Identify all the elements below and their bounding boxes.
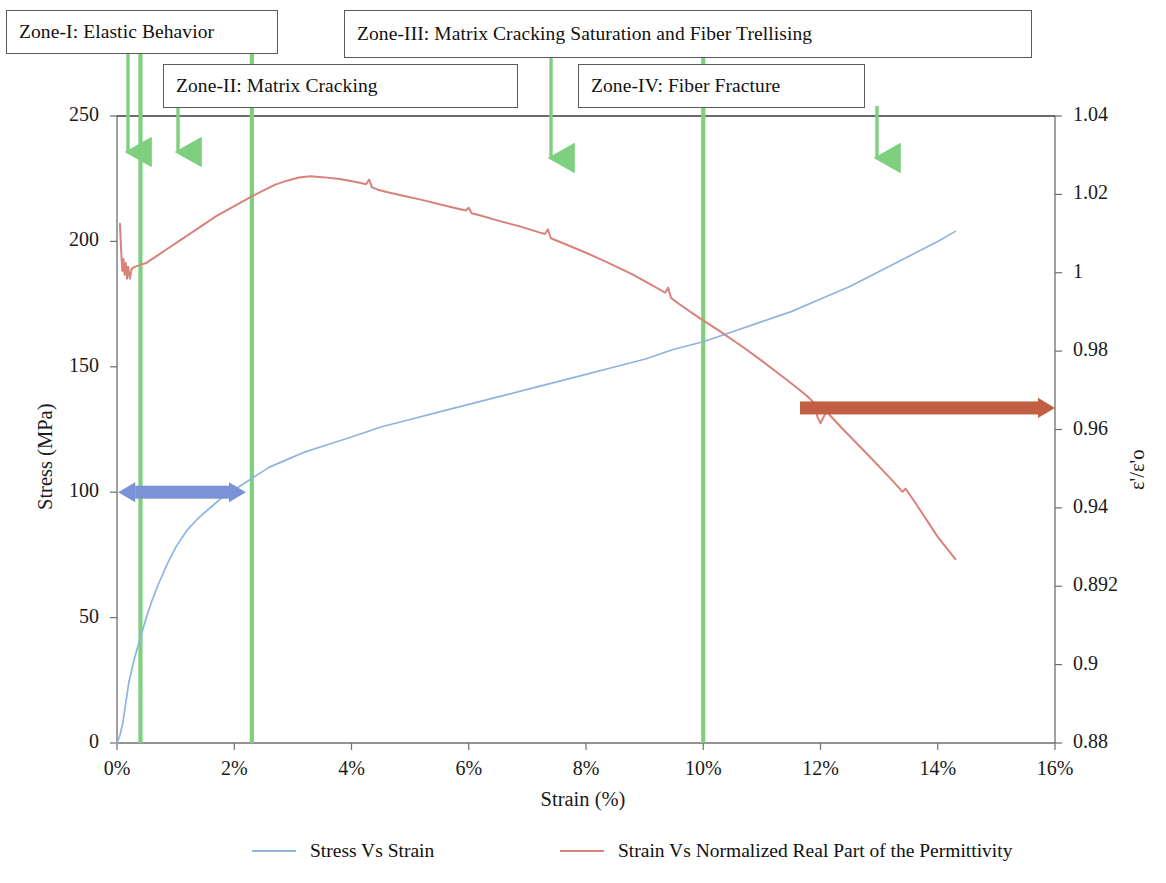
range-span-arrows xyxy=(118,398,1055,502)
tick-label: 0% xyxy=(72,757,162,780)
tick-label: 250 xyxy=(7,103,99,126)
tick-label: 8% xyxy=(541,757,631,780)
zone-callout-3-label: Zone-III: Matrix Cracking Saturation and… xyxy=(357,23,812,45)
tick-label: 200 xyxy=(7,228,99,251)
y2-axis-title-text: ε'/ε'o xyxy=(1126,449,1148,490)
tick-label: 0.94 xyxy=(1073,495,1166,518)
chart-canvas xyxy=(0,0,1166,883)
tick-label: 1.02 xyxy=(1073,181,1166,204)
tick-label: 150 xyxy=(7,354,99,377)
tick-label: 1.04 xyxy=(1073,103,1166,126)
tick-label: 0 xyxy=(7,730,99,753)
tick-label: 0.96 xyxy=(1073,417,1166,440)
legend-swatch-permittivity xyxy=(560,850,604,852)
legend-label-permittivity: Strain Vs Normalized Real Part of the Pe… xyxy=(618,840,1012,862)
zone-callout-4-label: Zone-IV: Fiber Fracture xyxy=(591,75,780,97)
x-axis-title: Strain (%) xyxy=(0,788,1166,811)
legend-label-stress: Stress Vs Strain xyxy=(310,840,434,862)
tick-label: 0.98 xyxy=(1073,338,1166,361)
series-line-permittivity xyxy=(120,176,955,559)
tick-label: 100 xyxy=(7,479,99,502)
zone-callout-2-label: Zone-II: Matrix Cracking xyxy=(176,75,378,97)
y2-axis-title: ε'/ε'o xyxy=(1126,449,1149,490)
figure-root: Zone-I: Elastic Behavior Zone-III: Matri… xyxy=(0,0,1166,883)
legend-entry-stress[interactable]: Stress Vs Strain xyxy=(252,840,434,862)
legend: Stress Vs Strain Strain Vs Normalized Re… xyxy=(0,838,1166,878)
data-series xyxy=(117,176,955,743)
tick-label: 10% xyxy=(658,757,748,780)
tick-label: 14% xyxy=(893,757,983,780)
tick-label: 2% xyxy=(189,757,279,780)
tick-label: 4% xyxy=(307,757,397,780)
tick-label: 0.9 xyxy=(1073,652,1166,675)
zone-callout-1[interactable]: Zone-I: Elastic Behavior xyxy=(6,10,278,54)
zone-callout-3[interactable]: Zone-III: Matrix Cracking Saturation and… xyxy=(344,10,1032,58)
tick-label: 1 xyxy=(1073,260,1166,283)
legend-swatch-stress xyxy=(252,850,296,852)
legend-entry-permittivity[interactable]: Strain Vs Normalized Real Part of the Pe… xyxy=(560,840,1012,862)
tick-label: 6% xyxy=(424,757,514,780)
tick-label: 12% xyxy=(776,757,866,780)
plot-frame xyxy=(117,116,1055,743)
tick-label: 16% xyxy=(1010,757,1100,780)
blue-zone-span xyxy=(118,482,246,502)
series-line-stress xyxy=(117,231,955,743)
tick-label: 50 xyxy=(7,605,99,628)
zone-callout-1-label: Zone-I: Elastic Behavior xyxy=(19,21,214,43)
tick-label: 0.88 xyxy=(1073,730,1166,753)
zone-callout-2[interactable]: Zone-II: Matrix Cracking xyxy=(163,64,518,108)
tick-label: 0.892 xyxy=(1073,573,1166,596)
red-zone-span xyxy=(800,398,1055,418)
zone-callout-4[interactable]: Zone-IV: Fiber Fracture xyxy=(578,64,865,108)
zone-divider-lines xyxy=(140,54,703,743)
